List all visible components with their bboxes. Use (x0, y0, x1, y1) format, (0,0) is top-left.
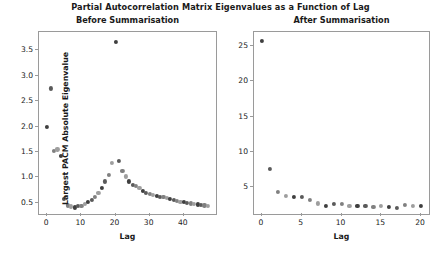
data-point (103, 179, 107, 183)
figure: Partial Autocorrelation Matrix Eigenvalu… (0, 0, 441, 254)
data-point (113, 40, 117, 44)
data-point (120, 169, 124, 173)
x-tick-label: 0 (246, 218, 276, 227)
y-tick-mark (35, 151, 38, 152)
x-tick-label: 15 (365, 218, 395, 227)
data-point (49, 86, 53, 90)
x-tick-mark (301, 213, 302, 216)
y-axis-label-before: Largest PACM Absolute Eigenvalue (61, 37, 70, 221)
x-tick-mark (46, 213, 47, 216)
data-point (371, 205, 375, 209)
data-point (419, 204, 423, 208)
data-point (300, 195, 304, 199)
x-tick-label: 40 (168, 218, 198, 227)
x-axis-label-after: Lag (253, 232, 430, 241)
figure-suptitle: Partial Autocorrelation Matrix Eigenvalu… (0, 2, 441, 12)
data-point (331, 202, 335, 206)
y-tick-label: 25 (217, 41, 248, 50)
axes-before-summarisation: Largest PACM Absolute Eigenvalue (38, 31, 217, 215)
data-point (110, 161, 114, 165)
x-tick-label: 10 (326, 218, 356, 227)
x-tick-mark (115, 213, 116, 216)
data-point (403, 203, 407, 207)
data-point (363, 203, 367, 207)
y-tick-label: 10 (217, 146, 248, 155)
x-tick-mark (149, 213, 150, 216)
data-point (206, 204, 210, 208)
y-tick-label: 1.0 (2, 172, 33, 181)
data-point (93, 195, 97, 199)
data-point (387, 205, 391, 209)
x-tick-mark (380, 213, 381, 216)
data-point (316, 201, 320, 205)
data-point (323, 203, 327, 207)
y-tick-mark (35, 176, 38, 177)
data-point (339, 202, 343, 206)
data-point (96, 191, 100, 195)
y-tick-mark (250, 151, 253, 152)
y-tick-mark (35, 100, 38, 101)
data-point (411, 204, 415, 208)
y-tick-mark (250, 45, 253, 46)
data-point (379, 203, 383, 207)
data-point (260, 39, 264, 43)
data-point (124, 174, 128, 178)
y-tick-label: 2.0 (2, 121, 33, 130)
subplot-title-before: Before Summarisation (38, 15, 217, 25)
y-tick-label: 5 (217, 182, 248, 191)
x-tick-mark (261, 213, 262, 216)
data-point (45, 125, 49, 129)
y-tick-label: 15 (217, 111, 248, 120)
x-tick-mark (341, 213, 342, 216)
y-tick-label: 3.5 (2, 45, 33, 54)
y-tick-label: 20 (217, 76, 248, 85)
x-axis-label-before: Lag (38, 232, 217, 241)
x-tick-label: 0 (31, 218, 61, 227)
data-point (55, 147, 59, 151)
x-tick-label: 30 (134, 218, 164, 227)
x-tick-mark (420, 213, 421, 216)
x-tick-label: 20 (100, 218, 130, 227)
data-point (308, 198, 312, 202)
x-tick-mark (80, 213, 81, 216)
data-point (395, 206, 399, 210)
data-point (355, 203, 359, 207)
scatter-plot-after (254, 32, 429, 214)
subplot-title-after: After Summarisation (253, 15, 430, 25)
x-tick-label: 5 (286, 218, 316, 227)
x-tick-label: 10 (65, 218, 95, 227)
y-tick-mark (250, 116, 253, 117)
data-point (276, 190, 280, 194)
y-tick-mark (250, 186, 253, 187)
y-tick-mark (35, 202, 38, 203)
y-tick-mark (250, 80, 253, 81)
y-tick-mark (35, 49, 38, 50)
axes-after-summarisation (253, 31, 430, 215)
data-point (284, 194, 288, 198)
y-tick-label: 2.5 (2, 96, 33, 105)
data-point (292, 195, 296, 199)
data-point (268, 167, 272, 171)
x-tick-mark (183, 213, 184, 216)
y-tick-label: 0.5 (2, 197, 33, 206)
y-tick-mark (35, 126, 38, 127)
data-point (117, 159, 121, 163)
x-tick-label: 20 (405, 218, 435, 227)
y-tick-label: 1.5 (2, 146, 33, 155)
y-tick-label: 3.0 (2, 70, 33, 79)
y-tick-mark (35, 75, 38, 76)
data-point (107, 173, 111, 177)
data-point (347, 203, 351, 207)
data-point (100, 185, 104, 189)
